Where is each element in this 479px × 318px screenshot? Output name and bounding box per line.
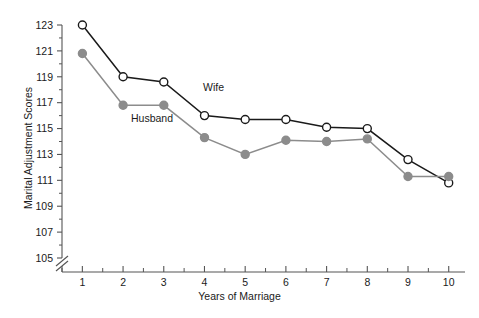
svg-text:105: 105 bbox=[35, 252, 53, 264]
svg-text:111: 111 bbox=[37, 174, 53, 186]
svg-text:123: 123 bbox=[35, 19, 53, 31]
series-wife bbox=[78, 21, 452, 187]
line-chart-plot: 105107109111113115117119121123 123456789… bbox=[0, 0, 479, 318]
data-point bbox=[363, 125, 371, 133]
svg-text:3: 3 bbox=[161, 276, 167, 288]
data-point bbox=[201, 134, 209, 142]
svg-text:5: 5 bbox=[242, 276, 248, 288]
svg-text:117: 117 bbox=[36, 96, 53, 108]
data-point bbox=[404, 173, 412, 181]
svg-text:113: 113 bbox=[36, 148, 53, 160]
svg-text:10: 10 bbox=[443, 276, 455, 288]
data-point bbox=[241, 116, 249, 124]
svg-text:8: 8 bbox=[364, 276, 370, 288]
svg-text:115: 115 bbox=[36, 122, 53, 134]
data-point bbox=[282, 116, 290, 124]
data-point bbox=[282, 136, 290, 144]
svg-text:4: 4 bbox=[202, 276, 208, 288]
y-axis-title: Marital Adjustment Scores bbox=[22, 48, 34, 248]
svg-text:2: 2 bbox=[120, 276, 126, 288]
data-point bbox=[119, 73, 127, 81]
data-point bbox=[78, 21, 86, 29]
x-axis-title: Years of Marriage bbox=[0, 290, 479, 302]
series-label-husband: Husband bbox=[131, 112, 173, 124]
series-label-wife: Wife bbox=[203, 81, 224, 93]
svg-text:1: 1 bbox=[79, 276, 85, 288]
x-axis-ticks bbox=[62, 266, 449, 272]
svg-text:107: 107 bbox=[35, 226, 53, 238]
data-point bbox=[323, 123, 331, 131]
svg-text:7: 7 bbox=[324, 276, 330, 288]
svg-text:121: 121 bbox=[35, 45, 53, 57]
data-point bbox=[241, 150, 249, 158]
chart-series-group bbox=[78, 21, 452, 187]
svg-text:109: 109 bbox=[35, 200, 53, 212]
y-axis-tick-labels: 105107109111113115117119121123 bbox=[35, 19, 53, 264]
data-point bbox=[201, 112, 209, 120]
svg-text:9: 9 bbox=[405, 276, 411, 288]
x-axis-tick-labels: 12345678910 bbox=[79, 276, 454, 288]
svg-text:119: 119 bbox=[36, 71, 53, 83]
data-point bbox=[404, 156, 412, 164]
chart-container: 105107109111113115117119121123 123456789… bbox=[0, 0, 479, 318]
series-line-wife bbox=[82, 25, 448, 183]
data-point bbox=[160, 78, 168, 86]
data-point bbox=[78, 50, 86, 58]
data-point bbox=[363, 135, 371, 143]
data-point bbox=[445, 173, 453, 181]
y-axis-ticks bbox=[57, 25, 62, 258]
data-point bbox=[160, 101, 168, 109]
data-point bbox=[119, 101, 127, 109]
data-point bbox=[323, 138, 331, 146]
svg-text:6: 6 bbox=[283, 276, 289, 288]
